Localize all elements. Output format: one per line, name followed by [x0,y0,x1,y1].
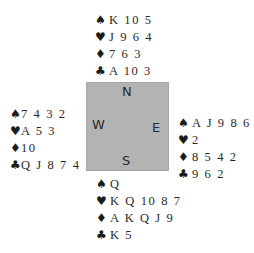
east-clubs-cards: 9 6 2 [192,167,225,181]
compass-table: N W E S [86,82,169,171]
north-hearts: ♥J 9 6 4 [95,29,153,46]
north-hearts-cards: J 9 6 4 [109,30,153,44]
east-clubs: ♣9 6 2 [178,166,251,183]
west-spades-cards: 7 4 3 2 [21,107,67,121]
spade-icon: ♠ [96,176,110,193]
north-diamonds: ♦7 6 3 [95,46,153,63]
heart-icon: ♥ [178,132,192,149]
south-spades: ♠Q [96,176,182,193]
south-spades-cards: Q [110,177,121,191]
south-diamonds: ♦A K Q J 9 [96,210,182,227]
heart-icon: ♥ [10,123,21,140]
heart-icon: ♥ [96,193,110,210]
west-diamonds: ♦10 [10,140,81,157]
compass-north-label: N [122,84,132,99]
west-clubs: ♣Q J 8 7 4 [10,157,81,174]
south-clubs: ♣K 5 [96,227,182,244]
heart-icon: ♥ [95,29,109,46]
spade-icon: ♠ [95,12,109,29]
south-hearts: ♥K Q 10 8 7 [96,193,182,210]
compass-east-label: E [152,120,160,135]
east-spades-cards: A J 9 8 6 [192,116,251,130]
east-spades: ♠A J 9 8 6 [178,115,251,132]
diamond-icon: ♦ [95,46,109,63]
north-diamonds-cards: 7 6 3 [109,47,142,61]
west-spades: ♠7 4 3 2 [10,106,81,123]
west-diamonds-cards: 10 [21,141,37,155]
spade-icon: ♠ [10,106,21,123]
west-clubs-cards: Q J 8 7 4 [21,158,81,172]
west-hearts: ♥A 5 3 [10,123,81,140]
north-spades-cards: K 10 5 [109,13,153,27]
north-spades: ♠K 10 5 [95,12,153,29]
club-icon: ♣ [96,227,110,244]
diamond-icon: ♦ [10,140,21,157]
west-hand: ♠7 4 3 2 ♥A 5 3 ♦10 ♣Q J 8 7 4 [10,106,81,174]
east-hearts: ♥2 [178,132,251,149]
diamond-icon: ♦ [178,149,192,166]
club-icon: ♣ [10,157,21,174]
west-hearts-cards: A 5 3 [21,124,56,138]
compass-south-label: S [122,153,130,168]
south-clubs-cards: K 5 [110,228,133,242]
north-clubs-cards: A 10 3 [109,64,152,78]
diamond-icon: ♦ [96,210,110,227]
south-diamonds-cards: A K Q J 9 [110,211,174,225]
south-hearts-cards: K Q 10 8 7 [110,194,182,208]
south-hand: ♠Q ♥K Q 10 8 7 ♦A K Q J 9 ♣K 5 [96,176,182,244]
east-diamonds: ♦8 5 4 2 [178,149,251,166]
spade-icon: ♠ [178,115,192,132]
north-clubs: ♣A 10 3 [95,63,153,80]
east-hearts-cards: 2 [192,133,200,147]
north-hand: ♠K 10 5 ♥J 9 6 4 ♦7 6 3 ♣A 10 3 [95,12,153,80]
east-hand: ♠A J 9 8 6 ♥2 ♦8 5 4 2 ♣9 6 2 [178,115,251,183]
club-icon: ♣ [95,63,109,80]
east-diamonds-cards: 8 5 4 2 [192,150,238,164]
compass-west-label: W [92,117,105,132]
